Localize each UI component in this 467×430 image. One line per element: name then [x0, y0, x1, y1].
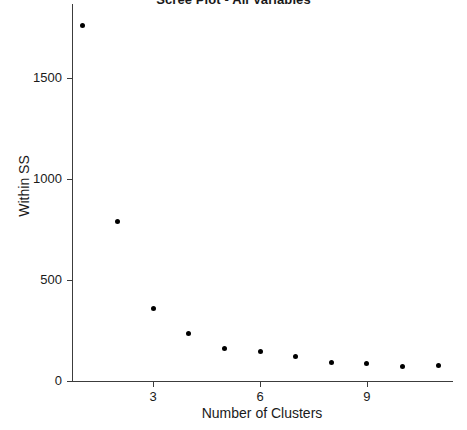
x-tick-mark [153, 382, 154, 387]
y-tick-mark [67, 381, 72, 382]
y-tick-label: 0 [0, 373, 62, 388]
y-axis-line [72, 4, 73, 382]
y-tick-mark [67, 280, 72, 281]
x-tick-mark [367, 382, 368, 387]
data-point [400, 364, 405, 369]
data-point [329, 360, 334, 365]
data-point [80, 23, 85, 28]
data-point [436, 363, 441, 368]
x-axis-label: Number of Clusters [72, 405, 452, 421]
data-point [293, 354, 298, 359]
x-tick-label: 3 [133, 389, 173, 404]
data-point [115, 219, 120, 224]
data-point [151, 306, 156, 311]
y-tick-label: 1500 [0, 70, 62, 85]
scree-plot-figure: Scree Plot - All Variables Within SS Num… [0, 0, 467, 430]
page-title: Scree Plot - All Variables [0, 0, 467, 7]
data-point [186, 331, 191, 336]
y-axis-label: Within SS [16, 116, 32, 256]
x-tick-mark [260, 382, 261, 387]
y-tick-label: 500 [0, 272, 62, 287]
x-axis-line [72, 381, 453, 382]
y-tick-mark [67, 78, 72, 79]
x-tick-label: 6 [240, 389, 280, 404]
data-point [222, 346, 227, 351]
y-tick-label: 1000 [0, 171, 62, 186]
y-tick-mark [67, 179, 72, 180]
x-tick-label: 9 [347, 389, 387, 404]
data-point [364, 361, 369, 366]
data-point [258, 349, 263, 354]
